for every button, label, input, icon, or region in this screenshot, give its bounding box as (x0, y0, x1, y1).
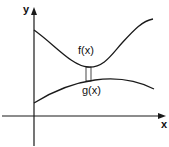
y-axis (31, 7, 37, 146)
area-between-curves-diagram: y x f(x) g(x) (0, 0, 169, 147)
x-axis-label: x (161, 119, 167, 130)
diagram-canvas (0, 0, 169, 147)
g-curve-label: g(x) (82, 85, 101, 96)
area-strip-rectangle (86, 67, 91, 81)
f-curve-label: f(x) (78, 45, 94, 56)
x-axis (2, 113, 166, 119)
y-axis-label: y (23, 4, 29, 15)
y-axis-arrow-icon (31, 7, 37, 15)
